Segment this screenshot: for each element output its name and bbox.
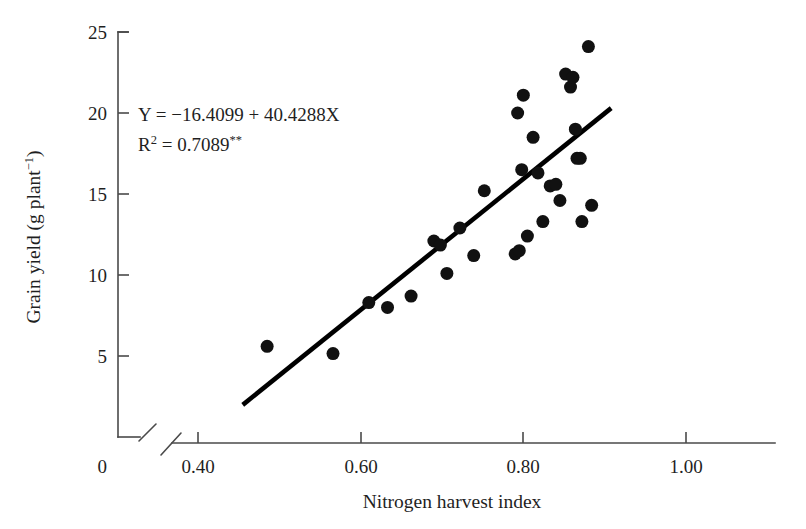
data-point bbox=[521, 230, 534, 243]
data-point bbox=[566, 71, 579, 84]
data-point bbox=[478, 184, 491, 197]
data-point bbox=[453, 222, 466, 235]
x-tick-label-0.40: 0.40 bbox=[181, 456, 214, 477]
y-axis-tick-labels: 25 20 15 10 5 0 bbox=[88, 22, 107, 477]
y-axis-ticks bbox=[118, 32, 129, 356]
y-tick-label-15: 15 bbox=[88, 184, 107, 205]
data-points-layer bbox=[261, 40, 599, 360]
r-squared-significance: ** bbox=[229, 133, 242, 147]
r-squared-text: R2 = 0.7089** bbox=[138, 133, 242, 155]
data-point bbox=[531, 166, 544, 179]
data-point bbox=[513, 244, 526, 257]
data-point bbox=[381, 301, 394, 314]
x-axis-title: Nitrogen harvest index bbox=[363, 491, 542, 512]
y-tick-label-25: 25 bbox=[88, 22, 107, 43]
data-point bbox=[327, 347, 340, 360]
data-point bbox=[434, 239, 447, 252]
y-axis-title-main: Grain yield (g plant bbox=[23, 170, 45, 324]
x-axis-tick-labels: 0.40 0.60 0.80 1.00 bbox=[181, 456, 702, 477]
data-point bbox=[582, 40, 595, 53]
data-point bbox=[575, 215, 588, 228]
data-point bbox=[467, 249, 480, 262]
regression-annotation: Y = −16.4099 + 40.4288X R2 = 0.7089** bbox=[138, 104, 340, 155]
data-point bbox=[585, 199, 598, 212]
data-point bbox=[511, 107, 524, 120]
x-tick-label-1.00: 1.00 bbox=[669, 456, 702, 477]
svg-text:Grain yield (g plant−1): Grain yield (g plant−1) bbox=[22, 150, 45, 323]
y-tick-label-5: 5 bbox=[98, 346, 108, 367]
data-point bbox=[553, 194, 566, 207]
data-point bbox=[440, 267, 453, 280]
data-point bbox=[515, 163, 528, 176]
y-axis-title: Grain yield (g plant−1) bbox=[22, 150, 45, 323]
data-point bbox=[569, 123, 582, 136]
axis-break-slash-left bbox=[139, 424, 156, 441]
data-point bbox=[527, 131, 540, 144]
data-point bbox=[549, 178, 562, 191]
x-axis-ticks bbox=[198, 432, 686, 443]
data-point bbox=[517, 89, 530, 102]
data-point bbox=[405, 290, 418, 303]
data-point bbox=[362, 296, 375, 309]
data-point bbox=[261, 340, 274, 353]
plot-canvas: 25 20 15 10 5 0 0.40 0.60 0.80 1.00 Nitr… bbox=[0, 0, 806, 529]
y-tick-label-10: 10 bbox=[88, 265, 107, 286]
data-point bbox=[536, 215, 549, 228]
x-tick-label-0.80: 0.80 bbox=[506, 456, 539, 477]
y-tick-label-20: 20 bbox=[88, 103, 107, 124]
y-axis-title-exponent: −1 bbox=[22, 157, 36, 170]
regression-line-layer bbox=[243, 108, 611, 405]
axis-break-slash-right bbox=[161, 433, 181, 455]
origin-tick-label: 0 bbox=[98, 456, 108, 477]
regression-equation-text: Y = −16.4099 + 40.4288X bbox=[138, 104, 340, 125]
r-squared-value: = 0.7089 bbox=[157, 134, 229, 155]
scatter-plot-figure: 25 20 15 10 5 0 0.40 0.60 0.80 1.00 Nitr… bbox=[0, 0, 806, 529]
y-axis-title-tail: ) bbox=[23, 150, 45, 157]
regression-line bbox=[243, 108, 611, 405]
r-squared-prefix: R bbox=[138, 134, 151, 155]
x-tick-label-0.60: 0.60 bbox=[344, 456, 377, 477]
data-point bbox=[574, 152, 587, 165]
